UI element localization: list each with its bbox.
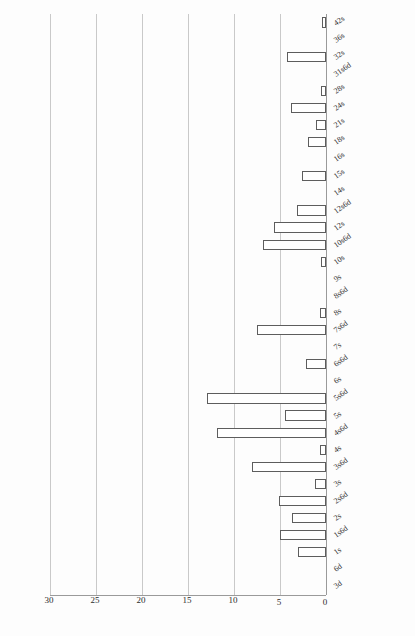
category-label: 1s [331,546,342,557]
bar [274,223,326,233]
bar-slot [50,565,326,575]
bar-slot [50,189,326,199]
bar-slot [50,582,326,592]
bar [302,171,326,181]
bar-slot [50,308,326,318]
category-label: 10s6d [331,231,352,249]
bar-slot [50,120,326,130]
category-label: 7s [331,341,342,352]
category-label: 1s6d [331,524,349,540]
value-tick-30: 30 [44,595,53,605]
category-label: 2s6d [331,490,349,506]
category-label: 3d [331,579,343,591]
bar-slot [50,428,326,438]
category-label: 6s [331,375,342,386]
bar [280,530,326,540]
category-label: 2s [331,512,342,523]
bar-slot [50,462,326,472]
category-label: 5s [331,409,342,420]
bar [314,479,325,489]
bar-slot [50,69,326,79]
bar [298,547,326,557]
category-label: 15s [331,168,345,182]
bar-slot [50,445,326,455]
bar-slot [50,394,326,404]
category-label: 3s6d [331,456,349,472]
bar [321,86,326,96]
value-tick-20: 20 [136,595,145,605]
bar [321,257,326,267]
category-label: 4s [331,443,342,454]
bar-slot [50,377,326,387]
bar [252,462,326,472]
bar-slot [50,223,326,233]
category-label: 12s6d [331,197,352,215]
bar-slot [50,547,326,557]
bar [284,411,325,421]
figure-caption: Figure 1.12Percentage share by price, 18… [397,628,409,636]
category-label: 21s [331,116,345,130]
bar-slot [50,52,326,62]
rotated-chart-stage: 051015202530 3d6d1s1s6d2s2s6d3s3s6d4s4s6… [32,8,384,602]
bar-series [50,14,326,595]
value-tick-25: 25 [90,595,99,605]
bar-slot [50,411,326,421]
bar-slot [50,206,326,216]
bar [320,308,326,318]
plot-region [50,14,326,596]
bar-slot [50,240,326,250]
bar-slot [50,325,326,335]
category-label: 28s [331,82,345,96]
bar [257,325,326,335]
category-label: 6s6d [331,353,349,369]
bar [263,240,326,250]
category-label: 18s [331,133,345,147]
value-tick-15: 15 [182,595,191,605]
value-tick-10: 10 [228,595,237,605]
bar [320,445,326,455]
bar-slot [50,86,326,96]
value-tick-5: 5 [276,597,281,607]
bar-slot [50,359,326,369]
category-label: 14s [331,185,345,199]
category-label: 10s [331,253,345,267]
bar [307,137,325,147]
value-tick-0: 0 [322,597,327,607]
bar-slot [50,274,326,284]
bar [322,18,326,28]
bar-slot [50,18,326,28]
bar [291,513,325,523]
bar [296,206,325,216]
bar-slot [50,479,326,489]
category-label: 6d [331,562,343,574]
bar [279,496,326,506]
category-label: 32s [331,48,345,62]
category-label: 9s [331,272,342,283]
bar [217,428,326,438]
category-label: 24s [331,99,345,113]
bar-slot [50,513,326,523]
bar [305,359,325,369]
bar-slot [50,291,326,301]
bar [287,52,326,62]
bar-slot [50,154,326,164]
bar-slot [50,257,326,267]
bar-slot [50,530,326,540]
bar [315,120,325,130]
category-label: 8s [331,307,342,318]
chart-area: 051015202530 3d6d1s1s6d2s2s6d3s3s6d4s4s6… [32,8,384,602]
bar [291,103,326,113]
category-label: 8s6d [331,285,349,301]
category-label: 7s6d [331,319,349,335]
figure-container: 051015202530 3d6d1s1s6d2s2s6d3s3s6d4s4s6… [0,0,415,636]
bar-slot [50,137,326,147]
bar-slot [50,496,326,506]
category-label: 36s [331,31,345,45]
category-label: 16s [331,150,345,164]
bar-slot [50,35,326,45]
bar-slot [50,342,326,352]
bar [207,394,326,404]
category-label: 3s [331,477,342,488]
category-label: 31s6d [331,60,352,78]
category-label: 42s [331,14,345,28]
